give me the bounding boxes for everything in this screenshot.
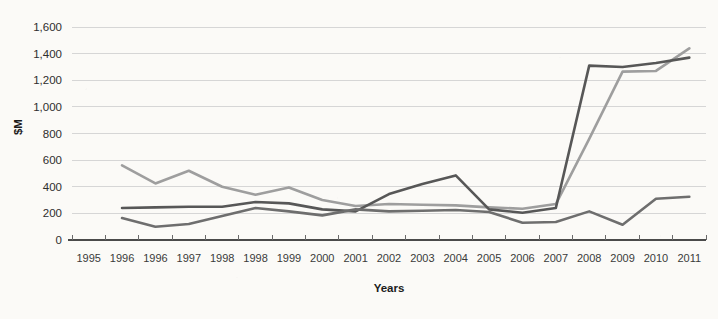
y-tick-label: 1,400 [33, 48, 62, 60]
x-tick-label: 2004 [443, 252, 467, 264]
x-tick-label: 2011 [677, 252, 701, 264]
x-tick-label: 2010 [644, 252, 668, 264]
x-tick-label: 2000 [310, 252, 334, 264]
x-tick-label: 1999 [277, 252, 301, 264]
x-tick-label: 1996 [143, 252, 167, 264]
y-tick-label: 800 [43, 128, 62, 140]
line-chart-figure: 02004006008001,0001,2001,4001,600 199519… [0, 0, 718, 319]
y-tick-label: 1,000 [33, 101, 62, 113]
y-tick-label: 1,600 [33, 21, 62, 33]
chart-background [0, 0, 718, 319]
y-tick-label: 1,200 [33, 74, 62, 86]
x-tick-label: 2009 [610, 252, 634, 264]
x-tick-label: 2006 [510, 252, 534, 264]
x-tick-label: 1998 [210, 252, 234, 264]
x-tick-label: 2007 [544, 252, 568, 264]
x-tick-label: 1997 [177, 252, 201, 264]
y-axis-title: $M [12, 119, 24, 135]
x-tick-label: 2003 [410, 252, 434, 264]
x-tick-label: 2002 [377, 252, 401, 264]
x-tick-label: 1996 [110, 252, 134, 264]
y-tick-label: 0 [56, 234, 62, 246]
y-tick-label: 200 [43, 207, 62, 219]
x-tick-label: 2008 [577, 252, 601, 264]
x-tick-label: 2005 [477, 252, 501, 264]
y-tick-label: 400 [43, 181, 62, 193]
x-tick-label: 1995 [76, 252, 100, 264]
chart-canvas: 02004006008001,0001,2001,4001,600 199519… [0, 0, 718, 319]
x-tick-label: 1998 [243, 252, 267, 264]
x-tick-label: 2001 [343, 252, 367, 264]
x-axis-title: Years [374, 282, 405, 294]
y-tick-label: 600 [43, 154, 62, 166]
